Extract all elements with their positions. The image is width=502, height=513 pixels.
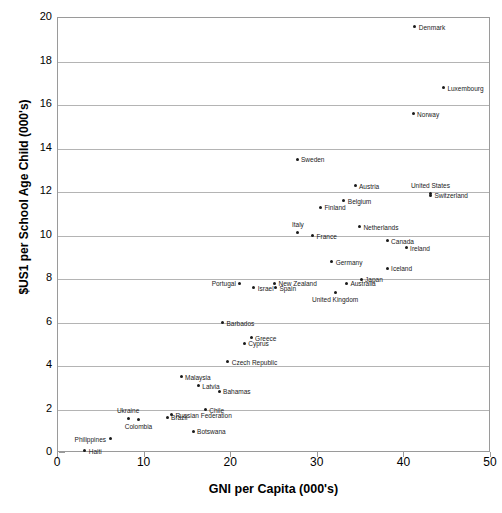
data-label-brazil: Brazil [171, 414, 187, 421]
x-tick-label-50: 50 [470, 456, 502, 468]
data-point-luxembourg [442, 86, 445, 89]
y-tick-label-4: 4 [18, 359, 52, 370]
data-point-sweden [296, 158, 299, 161]
data-label-spain: Spain [279, 284, 296, 291]
data-label-israel: Israel [258, 284, 274, 291]
x-tick-label-20: 20 [210, 456, 250, 468]
y-tick-label-18: 18 [18, 55, 52, 66]
x-tick-mark-40 [403, 452, 404, 457]
y-tick-label-8: 8 [18, 272, 52, 283]
y-tick-label-20: 20 [18, 11, 52, 22]
data-label-sweden: Sweden [301, 156, 325, 163]
data-point-canada [386, 239, 389, 242]
data-point-cyprus [243, 342, 246, 345]
data-point-norway [412, 112, 415, 115]
data-point-switzerland [429, 194, 432, 197]
data-label-colombia: Colombia [125, 423, 152, 430]
data-point-ireland [405, 246, 408, 249]
data-label-france: France [317, 232, 337, 239]
gridline-y-4 [58, 366, 489, 367]
x-tick-mark-10 [144, 452, 145, 457]
data-label-luxembourg: Luxembourg [447, 84, 483, 91]
data-point-botswana [192, 430, 195, 433]
gridline-y-16 [58, 105, 489, 106]
data-point-colombia [137, 418, 140, 421]
y-tick-label-14: 14 [18, 142, 52, 153]
scatter-chart: $US1 per School Age Child (000's) 024681… [0, 0, 502, 513]
gridline-y-18 [58, 62, 489, 63]
data-label-latvia: Latvia [202, 382, 219, 389]
x-tick-mark-0 [57, 452, 58, 457]
data-point-spain [274, 286, 277, 289]
gridline-y-14 [58, 149, 489, 150]
data-point-netherlands [358, 225, 361, 228]
data-label-switzerland: Switzerland [434, 192, 468, 199]
data-label-ukraine: Ukraine [117, 407, 139, 414]
data-point-denmark [413, 25, 416, 28]
data-label-czech-republic: Czech Republic [232, 358, 278, 365]
gridline-y-10 [58, 236, 489, 237]
data-point-malaysia [180, 375, 183, 378]
data-point-germany [330, 260, 333, 263]
data-label-denmark: Denmark [419, 23, 445, 30]
data-label-iceland: Iceland [391, 265, 412, 272]
data-point-barbados [221, 321, 224, 324]
x-tick-mark-30 [317, 452, 318, 457]
gridline-y-8 [58, 279, 489, 280]
data-label-austria: Austria [359, 182, 379, 189]
data-label-finland: Finland [324, 204, 345, 211]
x-tick-label-30: 30 [297, 456, 337, 468]
y-tick-label-2: 2 [18, 403, 52, 414]
gridline-y-12 [58, 192, 489, 193]
data-point-ukraine [127, 417, 130, 420]
x-tick-mark-20 [230, 452, 231, 457]
data-label-netherlands: Netherlands [363, 223, 398, 230]
data-label-bahamas: Bahamas [223, 388, 250, 395]
data-label-haiti: Haiti [89, 447, 102, 454]
y-tick-label-10: 10 [18, 229, 52, 240]
data-label-australia: Australia [350, 280, 375, 287]
y-axis-tick-labels: 02468101214161820 [8, 0, 52, 513]
data-label-belgium: Belgium [348, 197, 371, 204]
data-label-united-states: United States [411, 182, 450, 189]
data-label-italy: Italy [292, 221, 304, 228]
data-label-malaysia: Malaysia [185, 373, 211, 380]
data-point-israel [252, 286, 255, 289]
data-point-haiti [83, 449, 86, 452]
data-point-latvia [197, 384, 200, 387]
data-point-brazil [166, 416, 169, 419]
data-point-philippines [109, 437, 112, 440]
data-point-iceland [386, 267, 389, 270]
y-tick-label-6: 6 [18, 316, 52, 327]
data-label-cyprus: Cyprus [248, 340, 269, 347]
x-tick-mark-50 [490, 452, 491, 457]
plot-area: DenmarkLuxembourgNorwaySwedenAustriaUnit… [57, 17, 490, 452]
data-point-france [311, 234, 314, 237]
data-label-united-kingdom: United Kingdom [312, 296, 358, 303]
data-point-czech-republic [226, 360, 229, 363]
x-tick-label-10: 10 [124, 456, 164, 468]
data-label-norway: Norway [417, 110, 439, 117]
data-point-portugal [238, 282, 241, 285]
x-tick-label-0: 0 [37, 456, 77, 468]
y-tick-mark-0 [59, 452, 65, 453]
data-point-finland [319, 206, 322, 209]
data-point-belgium [342, 199, 345, 202]
data-point-australia [345, 282, 348, 285]
data-point-united-kingdom [334, 291, 337, 294]
gridline-y-6 [58, 323, 489, 324]
y-tick-label-12: 12 [18, 185, 52, 196]
data-label-botswana: Botswana [197, 428, 226, 435]
data-label-ireland: Ireland [410, 244, 430, 251]
x-tick-label-40: 40 [383, 456, 423, 468]
data-point-bahamas [218, 390, 221, 393]
y-tick-label-16: 16 [18, 98, 52, 109]
data-point-italy [296, 231, 299, 234]
data-label-germany: Germany [336, 258, 363, 265]
data-label-barbados: Barbados [227, 319, 255, 326]
x-axis-title: GNI per Capita (000's) [57, 482, 490, 496]
data-point-austria [354, 184, 357, 187]
